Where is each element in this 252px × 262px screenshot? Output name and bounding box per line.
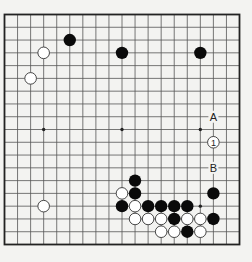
white-stone <box>155 213 167 225</box>
point-label-a: A <box>210 111 218 123</box>
white-stone <box>25 73 37 85</box>
white-stone <box>38 200 50 212</box>
go-board: AB1 <box>0 0 252 262</box>
black-stone <box>194 47 206 59</box>
move-number-label: 1 <box>211 138 216 148</box>
star-point <box>42 128 45 131</box>
black-stone <box>168 213 180 225</box>
black-stone <box>181 226 193 238</box>
star-point <box>120 128 123 131</box>
black-stone <box>129 174 141 186</box>
point-label-b: B <box>210 162 217 174</box>
black-stone <box>129 187 141 199</box>
white-stone <box>129 200 141 212</box>
black-stone <box>155 200 167 212</box>
white-stone <box>195 213 207 225</box>
black-stone <box>64 34 76 46</box>
white-stone <box>155 226 167 238</box>
white-stone <box>168 226 180 238</box>
black-stone <box>207 187 219 199</box>
black-stone <box>142 200 154 212</box>
black-stone <box>116 200 128 212</box>
white-stone <box>181 213 193 225</box>
white-stone <box>142 213 154 225</box>
black-stone <box>181 200 193 212</box>
white-stone <box>38 47 50 59</box>
white-stone <box>129 213 141 225</box>
black-stone <box>168 200 180 212</box>
black-stone <box>207 213 219 225</box>
star-point <box>199 128 202 131</box>
black-stone <box>116 47 128 59</box>
star-point <box>199 204 202 207</box>
white-stone <box>116 188 128 200</box>
white-stone <box>195 226 207 238</box>
